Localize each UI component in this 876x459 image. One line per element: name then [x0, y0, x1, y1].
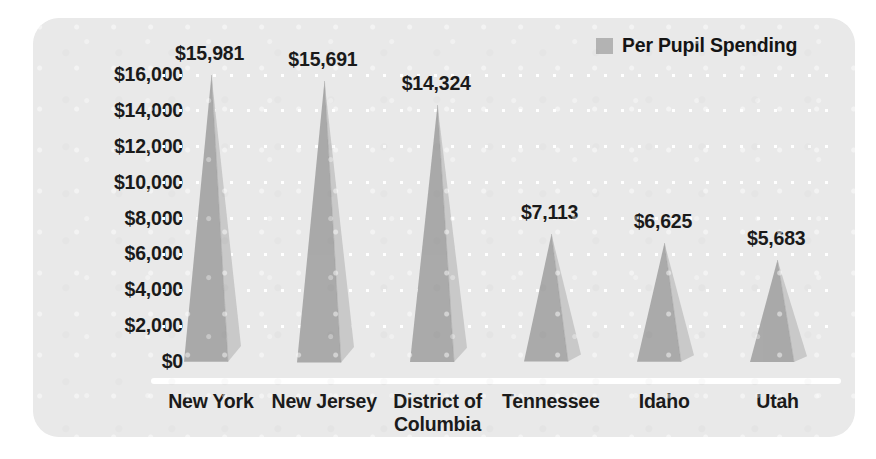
- plot-area: [155, 75, 835, 362]
- x-axis-category-label: Idaho: [639, 390, 690, 413]
- gridline: [155, 324, 835, 329]
- chart-figure: Per Pupil Spending $16,000$14,000$12,000…: [0, 0, 876, 459]
- bar-value-label: $7,113: [521, 203, 578, 223]
- gridline: [155, 108, 835, 113]
- x-axis-category-label: Utah: [756, 390, 799, 413]
- bar-value-label: $15,691: [288, 50, 357, 70]
- x-axis-category-label: District of Columbia: [393, 390, 482, 435]
- gridline: [155, 180, 835, 185]
- bar-pyramid: [524, 234, 581, 362]
- gridline: [155, 252, 835, 257]
- gridline: [155, 73, 835, 78]
- bar-value-label: $15,981: [175, 44, 244, 64]
- chart-panel: Per Pupil Spending $16,000$14,000$12,000…: [33, 18, 855, 437]
- axis-baseline: [151, 378, 841, 384]
- bar-pyramid: [410, 105, 467, 362]
- bar-pyramid: [750, 260, 807, 362]
- chart-legend: Per Pupil Spending: [596, 36, 797, 56]
- legend-swatch-per-pupil-spending: [596, 38, 613, 54]
- bar-value-label: $14,324: [402, 74, 471, 94]
- bar-pyramid: [637, 243, 694, 362]
- x-axis-category-label: New Jersey: [272, 390, 377, 413]
- legend-label-per-pupil-spending: Per Pupil Spending: [622, 36, 797, 56]
- gridline: [155, 144, 835, 149]
- x-axis-category-label: New York: [168, 390, 253, 413]
- x-axis-category-label: Tennessee: [502, 390, 600, 413]
- bar-pyramid: [297, 81, 354, 362]
- gridline: [155, 288, 835, 293]
- bar-value-label: $5,683: [747, 229, 805, 249]
- bar-pyramid: [184, 75, 241, 362]
- gridline: [155, 216, 835, 221]
- bar-value-label: $6,625: [634, 212, 692, 232]
